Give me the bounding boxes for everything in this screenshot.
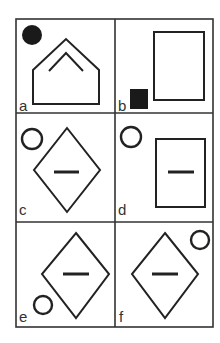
filled-square-icon bbox=[130, 89, 148, 109]
cell-a[interactable]: a bbox=[19, 25, 99, 114]
cell-label: f bbox=[119, 308, 124, 325]
hollow-circle-icon bbox=[22, 129, 42, 149]
hollow-circle-icon bbox=[121, 127, 141, 147]
cell-e[interactable]: e bbox=[19, 233, 109, 325]
house-pentagon-icon bbox=[33, 39, 99, 104]
hollow-circle-icon bbox=[191, 231, 209, 249]
analogy-puzzle-grid: a b c d e f bbox=[0, 0, 220, 343]
cell-label: a bbox=[19, 97, 28, 114]
cell-label: c bbox=[19, 201, 27, 218]
diamond-icon bbox=[34, 128, 100, 212]
filled-circle-icon bbox=[22, 25, 42, 45]
cell-label: e bbox=[19, 308, 27, 325]
cell-label: b bbox=[118, 97, 126, 114]
cell-label: d bbox=[118, 201, 126, 218]
cell-f[interactable]: f bbox=[119, 231, 209, 325]
cell-b[interactable]: b bbox=[118, 32, 204, 114]
cell-c[interactable]: c bbox=[19, 128, 100, 218]
chevron-icon bbox=[49, 53, 83, 71]
rectangle-icon bbox=[154, 32, 204, 100]
hollow-circle-icon bbox=[34, 296, 52, 314]
cell-d[interactable]: d bbox=[118, 127, 205, 218]
